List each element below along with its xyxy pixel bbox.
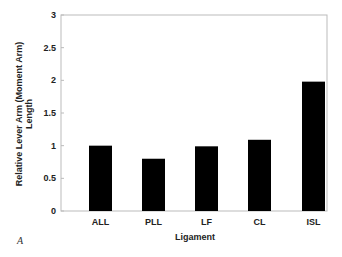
y-tick-label: 1	[51, 141, 56, 151]
y-axis-title-line1: Relative Lever Arm (Moment Arm)	[14, 42, 24, 186]
y-tick-label: 0.5	[43, 173, 56, 183]
x-tick-label-all: ALL	[92, 217, 110, 227]
x-tick-label-isl: ISL	[306, 217, 321, 227]
bars	[89, 82, 325, 211]
y-tick-label: 1.5	[43, 108, 56, 118]
x-tick-label-cl: CL	[254, 217, 266, 227]
y-tick-label: 2.5	[43, 43, 56, 53]
y-tick-label: 2	[51, 75, 56, 85]
bar-chart: 00.511.522.53 ALLPLLLFCLISL Relative Lev…	[0, 0, 342, 257]
x-axis-title: Ligament	[175, 232, 215, 242]
y-tick-label: 3	[51, 10, 56, 20]
x-axis-labels: ALLPLLLFCLISL	[92, 217, 321, 227]
bar-lf	[195, 146, 218, 211]
bar-all	[89, 146, 112, 211]
bar-pll	[142, 159, 165, 211]
x-tick-label-lf: LF	[201, 217, 212, 227]
y-axis-title-line2: Length	[24, 99, 34, 129]
x-tick-label-pll: PLL	[145, 217, 163, 227]
bar-cl	[248, 140, 271, 211]
panel-label: A	[16, 235, 24, 246]
bar-isl	[302, 82, 325, 211]
y-tick-label: 0	[51, 206, 56, 216]
